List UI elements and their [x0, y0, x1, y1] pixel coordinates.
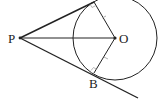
- label-o: O: [119, 31, 128, 46]
- circle: [73, 0, 157, 80]
- point-o: [113, 36, 116, 39]
- tangent-circle-diagram: P O B: [0, 0, 166, 109]
- label-p: P: [8, 31, 15, 46]
- tick-mark-ob: [104, 57, 108, 59]
- label-b: B: [89, 76, 98, 91]
- tangent-pa: [20, 2, 94, 38]
- radius-ob: [94, 38, 115, 73]
- point-p: [19, 37, 22, 40]
- tangent-pb: [20, 38, 138, 98]
- radius-oa: [94, 2, 115, 38]
